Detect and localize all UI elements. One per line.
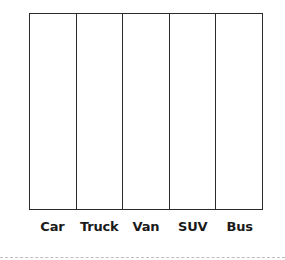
column-car (30, 14, 77, 209)
column-bus (216, 14, 262, 209)
category-label-truck: Truck (76, 219, 123, 234)
dashed-divider (0, 257, 285, 258)
column-truck (77, 14, 124, 209)
column-suv (170, 14, 217, 209)
category-label-van: Van (123, 219, 170, 234)
category-label-bus: Bus (216, 219, 263, 234)
bar-graph-grid (29, 13, 263, 210)
category-label-car: Car (29, 219, 76, 234)
column-van (123, 14, 170, 209)
category-labels: Car Truck Van SUV Bus (29, 219, 263, 234)
category-label-suv: SUV (169, 219, 216, 234)
